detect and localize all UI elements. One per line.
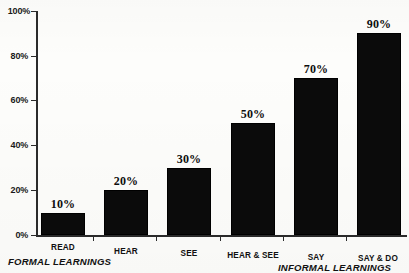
x-axis-line bbox=[36, 235, 407, 237]
x-tick-mark-1 bbox=[93, 236, 94, 241]
bar-value-hear: 20% bbox=[104, 174, 148, 189]
y-tick-mark-80 bbox=[31, 56, 37, 57]
bar-value-hear-and-see: 50% bbox=[231, 107, 275, 122]
bar-say bbox=[294, 78, 338, 235]
y-tick-label-40: 40% bbox=[2, 140, 28, 150]
x-tick-mark-4 bbox=[283, 236, 284, 241]
bar-value-read: 10% bbox=[41, 197, 85, 212]
x-tick-mark-2 bbox=[156, 236, 157, 241]
x-category-label-hear: HEAR bbox=[96, 247, 156, 256]
bar-say-and-do bbox=[357, 33, 401, 235]
bar-hear bbox=[104, 190, 148, 235]
x-category-label-see: SEE bbox=[159, 249, 219, 258]
group-label-formal-learnings: FORMAL LEARNINGS bbox=[8, 256, 111, 267]
bar-hear-and-see bbox=[231, 123, 275, 235]
y-tick-label-60: 60% bbox=[2, 95, 28, 105]
x-tick-mark-5 bbox=[346, 236, 347, 241]
x-category-label-read: READ bbox=[33, 243, 93, 252]
y-tick-label-0: 0% bbox=[2, 230, 28, 240]
y-tick-label-80: 80% bbox=[2, 51, 28, 61]
x-category-label-hear-and-see: HEAR & SEE bbox=[218, 251, 288, 260]
y-tick-mark-100 bbox=[31, 11, 37, 12]
y-tick-mark-60 bbox=[31, 100, 37, 101]
x-category-label-say: SAY bbox=[286, 253, 346, 262]
bar-value-say: 70% bbox=[294, 62, 338, 77]
bar-value-see: 30% bbox=[167, 152, 211, 167]
bar-chart: 0% 20% 40% 60% 80% 100% 10% 20% 30% 50% … bbox=[0, 0, 409, 273]
y-axis-line bbox=[36, 11, 38, 236]
y-tick-label-20: 20% bbox=[2, 185, 28, 195]
bar-see bbox=[167, 168, 211, 235]
x-tick-mark-3 bbox=[220, 236, 221, 241]
bar-read bbox=[41, 213, 85, 235]
y-tick-mark-40 bbox=[31, 145, 37, 146]
plot-area: 0% 20% 40% 60% 80% 100% 10% 20% 30% 50% … bbox=[0, 0, 409, 273]
group-label-informal-learnings: INFORMAL LEARNINGS bbox=[278, 262, 391, 273]
y-tick-mark-20 bbox=[31, 190, 37, 191]
bar-value-say-and-do: 90% bbox=[357, 17, 401, 32]
y-tick-label-100: 100% bbox=[0, 6, 30, 16]
